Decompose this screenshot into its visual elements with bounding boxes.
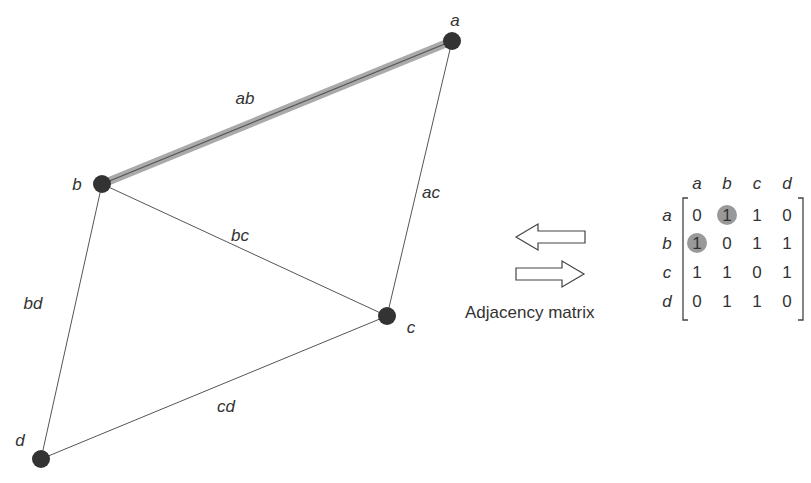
matrix-cell: 0: [722, 234, 731, 253]
matrix-cell: 1: [722, 292, 731, 311]
right-arrow-icon: [516, 261, 584, 287]
matrix-row-header-c: c: [663, 263, 672, 282]
matrix-col-header-d: d: [782, 174, 792, 193]
matrix-col-header-b: b: [722, 174, 731, 193]
labels-layer: abacbcbdcdabcd: [15, 11, 459, 450]
matrix-cell: 0: [782, 206, 791, 225]
matrix-cell: 1: [722, 206, 731, 225]
edge-ab: [102, 41, 452, 184]
edge-label-cd: cd: [217, 397, 236, 416]
node-b: [93, 175, 111, 193]
node-label-a: a: [450, 11, 459, 30]
node-label-c: c: [407, 318, 416, 337]
matrix-cell: 1: [752, 234, 761, 253]
matrix-cell: 0: [752, 263, 761, 282]
matrix-row-header-d: d: [662, 292, 672, 311]
left-arrow-icon: [516, 224, 585, 250]
node-a: [443, 32, 461, 50]
matrix-cell: 1: [752, 206, 761, 225]
edge-label-bc: bc: [231, 226, 249, 245]
matrix-cell: 1: [722, 263, 731, 282]
graph-diagram: abacbcbdcdabcd Adjacency matrix abcdabcd…: [0, 0, 811, 483]
matrix-cell: 1: [782, 263, 791, 282]
matrix-cell: 1: [692, 234, 701, 253]
edge-cd: [41, 316, 387, 459]
matrix-row-header-b: b: [662, 234, 671, 253]
edge-bd: [41, 184, 102, 459]
node-c: [378, 307, 396, 325]
adjacency-matrix-caption: Adjacency matrix: [465, 303, 595, 322]
matrix-cell: 1: [752, 292, 761, 311]
node-d: [32, 450, 50, 468]
matrix-left-bracket: [683, 198, 688, 320]
edge-label-ab: ab: [236, 89, 255, 108]
edge-ac: [387, 41, 452, 316]
conversion-arrows: [516, 224, 585, 287]
matrix-cell: 1: [782, 234, 791, 253]
node-label-d: d: [15, 431, 25, 450]
edge-label-bd: bd: [24, 294, 43, 313]
matrix-col-header-a: a: [692, 174, 701, 193]
adjacency-matrix: abcdabcd0110101111010110: [662, 174, 803, 320]
matrix-cell: 0: [782, 292, 791, 311]
matrix-cell: 0: [692, 292, 701, 311]
edge-bc: [102, 184, 387, 316]
matrix-row-header-a: a: [662, 206, 671, 225]
matrix-right-bracket: [798, 198, 803, 320]
matrix-col-header-c: c: [753, 174, 762, 193]
edge-label-ac: ac: [422, 183, 440, 202]
matrix-cell: 0: [692, 206, 701, 225]
matrix-cell: 1: [692, 263, 701, 282]
node-label-b: b: [72, 175, 81, 194]
